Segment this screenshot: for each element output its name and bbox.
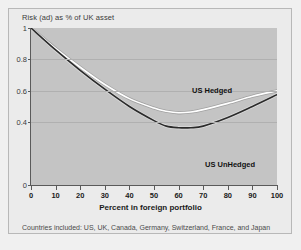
chart-screenshot: Risk (ad) as % of UK asset 10.80.60.40 0… — [0, 0, 301, 250]
x-tick-label: 80 — [224, 191, 232, 200]
x-tick-mark — [228, 186, 229, 190]
x-tick-mark — [105, 186, 106, 190]
x-tick-label: 90 — [248, 191, 256, 200]
x-tick-mark — [154, 186, 155, 190]
x-tick-mark — [203, 186, 204, 190]
gridline — [31, 91, 277, 92]
x-axis-tick-labels: 0102030405060708090100 — [31, 191, 277, 202]
x-tick-label: 60 — [174, 191, 182, 200]
x-tick-mark — [179, 186, 180, 190]
x-tick-mark — [80, 186, 81, 190]
x-tick-mark — [31, 186, 32, 190]
x-tick-label: 70 — [199, 191, 207, 200]
y-tick-label: 0.6 — [17, 86, 27, 95]
gridline — [31, 59, 277, 60]
series-line-us-unhedged — [31, 28, 277, 128]
x-tick-mark — [277, 186, 278, 190]
y-tick-label: 0 — [23, 181, 27, 190]
x-tick-label: 40 — [125, 191, 133, 200]
y-tick-label: 0.8 — [17, 55, 27, 64]
x-tick-label: 0 — [29, 191, 33, 200]
x-tick-label: 100 — [271, 191, 284, 200]
series-label-unhedged: US UnHedged — [205, 160, 255, 169]
gridline — [31, 122, 277, 123]
series-label-hedged: US Hedged — [192, 86, 232, 95]
footnote: Countries included: US, UK, Canada, Germ… — [22, 224, 270, 231]
x-axis-title: Percent in foreign portfolio — [0, 203, 301, 212]
y-axis-tick-labels: 10.80.60.40 — [6, 28, 27, 185]
x-tick-label: 10 — [51, 191, 59, 200]
x-tick-mark — [129, 186, 130, 190]
series-line-us-hedged — [31, 28, 277, 113]
x-tick-mark — [252, 186, 253, 190]
y-tick-label: 1 — [23, 24, 27, 33]
x-tick-label: 30 — [101, 191, 109, 200]
x-axis-tick-marks — [31, 186, 277, 190]
y-tick-label: 0.4 — [17, 118, 27, 127]
chart-title: Risk (ad) as % of UK asset — [22, 13, 114, 22]
x-tick-label: 20 — [76, 191, 84, 200]
x-tick-label: 50 — [150, 191, 158, 200]
x-tick-mark — [56, 186, 57, 190]
